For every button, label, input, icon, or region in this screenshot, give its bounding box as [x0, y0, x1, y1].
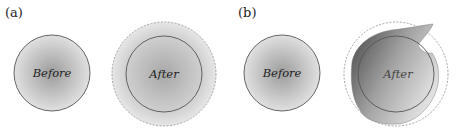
panel-b-after: After — [344, 22, 448, 126]
panel-b: (b) Before After — [238, 5, 448, 126]
panel-a-label: (a) — [5, 5, 23, 20]
panel-b-label: (b) — [238, 5, 256, 20]
panel-b-before: Before — [244, 35, 320, 111]
panel-a-after: After — [112, 22, 216, 126]
panel-a-before: Before — [14, 35, 90, 111]
diagram-canvas: (a) Before After (b) Before After — [0, 0, 461, 131]
after-label: After — [148, 67, 180, 81]
after-label: After — [382, 67, 414, 81]
panel-a: (a) Before After — [5, 5, 216, 126]
before-label: Before — [262, 66, 302, 80]
before-label: Before — [32, 66, 72, 80]
